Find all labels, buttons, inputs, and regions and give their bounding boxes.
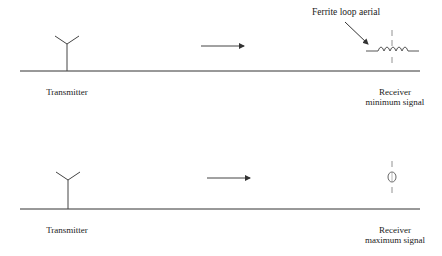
annotation-pointer-arrow — [345, 22, 368, 44]
diagram-canvas — [0, 0, 442, 256]
ferrite-coil-end-on-icon — [388, 172, 396, 182]
transmitter-antenna-icon-bottom — [56, 172, 80, 209]
ferrite-loop-aerial-label: Ferrite loop aerial — [312, 7, 380, 17]
receiver-label-top-line2: minimum signal — [355, 97, 435, 107]
transmitter-antenna-icon-top — [55, 36, 79, 71]
receiver-label-top-line1: Receiver — [355, 87, 435, 97]
receiver-label-top: Receiver minimum signal — [355, 87, 435, 107]
receiver-label-bottom: Receiver maximum signal — [355, 225, 435, 245]
receiver-label-bottom-line1: Receiver — [355, 225, 435, 235]
receiver-label-bottom-line2: maximum signal — [355, 235, 435, 245]
transmitter-label-bottom: Transmitter — [40, 225, 94, 235]
ferrite-loop-coil-icon — [366, 47, 419, 51]
transmitter-label-top: Transmitter — [40, 87, 94, 97]
